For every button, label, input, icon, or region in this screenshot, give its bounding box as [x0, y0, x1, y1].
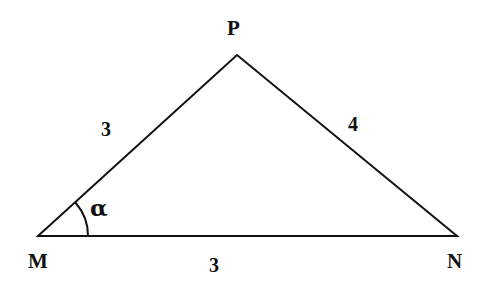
vertex-label-n: N: [447, 251, 462, 272]
vertex-label-p: P: [227, 18, 240, 39]
side-length-label-mn: 3: [209, 255, 219, 275]
triangle-diagram-svg: [0, 0, 495, 296]
vertex-label-m: M: [28, 251, 48, 272]
canvas-background: [0, 0, 495, 296]
side-length-label-mp: 3: [101, 119, 111, 139]
geometry-figure: P M N 3 4 3 α: [0, 0, 495, 296]
side-length-label-pn: 4: [348, 114, 358, 134]
angle-label-alpha: α: [90, 196, 108, 219]
